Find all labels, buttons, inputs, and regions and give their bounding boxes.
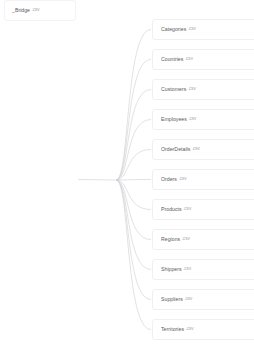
node-leaf[interactable]: Products.csv xyxy=(152,199,254,220)
node-leaf-extension: .csv xyxy=(182,207,192,212)
edge-link xyxy=(116,120,151,181)
node-leaf-extension: .csv xyxy=(190,147,200,152)
node-leaf-extension: .csv xyxy=(186,27,196,32)
edge-link xyxy=(116,180,151,330)
node-leaf-label: Shippers xyxy=(153,267,182,272)
node-leaf[interactable]: Customers.csv xyxy=(152,79,254,100)
node-leaf-extension: .csv xyxy=(183,297,193,302)
node-root-label: _Bridge xyxy=(5,8,30,13)
node-leaf-extension: .csv xyxy=(187,117,197,122)
node-leaf[interactable]: Regions.csv xyxy=(152,229,254,250)
node-leaf-extension: .csv xyxy=(180,237,190,242)
node-leaf-label: Suppliers xyxy=(153,297,183,302)
edge-link xyxy=(116,180,151,300)
node-leaf-label: Regions xyxy=(153,237,180,242)
node-leaf[interactable]: Territories.csv xyxy=(152,319,254,340)
node-leaf-extension: .csv xyxy=(183,57,193,62)
lineage-diagram: _Bridge .csv Categories.csvCountries.csv… xyxy=(0,0,254,354)
edge-link xyxy=(116,150,151,181)
node-leaf-label: Categories xyxy=(153,27,186,32)
edge-link xyxy=(116,60,151,181)
node-leaf[interactable]: Suppliers.csv xyxy=(152,289,254,310)
node-leaf-extension: .csv xyxy=(186,87,196,92)
node-leaf[interactable]: Shippers.csv xyxy=(152,259,254,280)
edge-link xyxy=(116,180,151,270)
node-leaf-label: Countries xyxy=(153,57,183,62)
edge-link xyxy=(116,90,151,181)
edge-link xyxy=(116,30,151,181)
node-leaf-label: Territories xyxy=(153,327,184,332)
node-leaf-label: Customers xyxy=(153,87,186,92)
node-leaf-extension: .csv xyxy=(184,327,194,332)
node-leaf[interactable]: OrderDetails.csv xyxy=(152,139,254,160)
node-leaf[interactable]: Categories.csv xyxy=(152,19,254,40)
edge-link xyxy=(116,180,151,210)
node-leaf-label: Employees xyxy=(153,117,187,122)
node-leaf-extension: .csv xyxy=(177,177,187,182)
node-leaf[interactable]: Employees.csv xyxy=(152,109,254,130)
node-leaf-label: Orders xyxy=(153,177,177,182)
node-root-bridge[interactable]: _Bridge .csv xyxy=(4,0,76,21)
node-leaf[interactable]: Orders.csv xyxy=(152,169,254,190)
node-leaf-label: OrderDetails xyxy=(153,147,190,152)
node-root-extension: .csv xyxy=(30,8,40,13)
edge-link xyxy=(116,180,151,240)
edge-link xyxy=(116,180,151,181)
edge-root-stub xyxy=(78,180,116,181)
node-leaf[interactable]: Countries.csv xyxy=(152,49,254,70)
node-leaf-label: Products xyxy=(153,207,182,212)
node-leaf-extension: .csv xyxy=(182,267,192,272)
